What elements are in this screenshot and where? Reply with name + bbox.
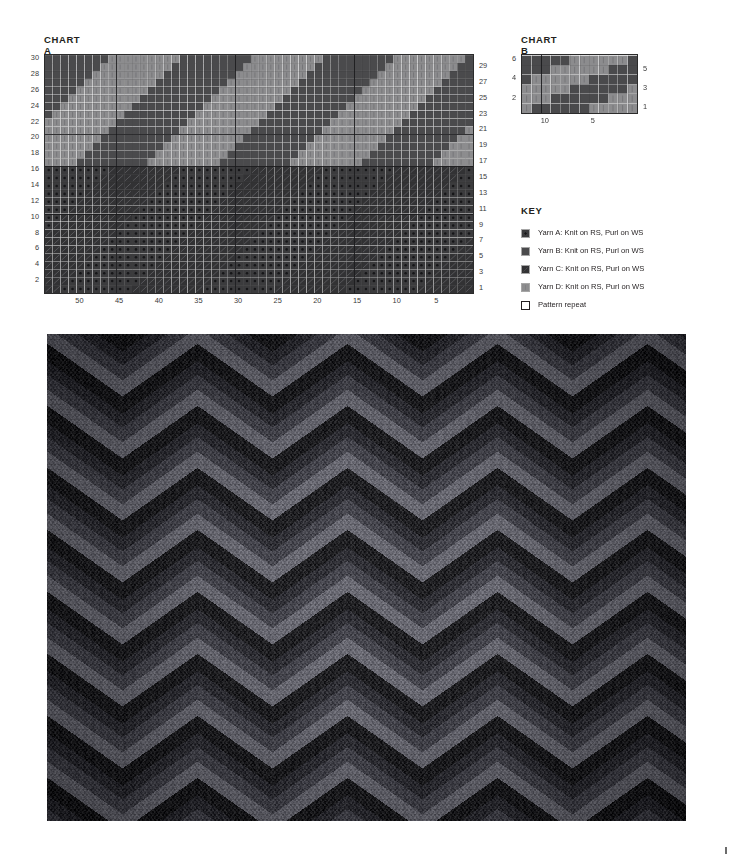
key-item-yarn-d: Yarn D: Knit on RS, Purl on WS: [521, 279, 726, 295]
chart-b-grid-wrap: 642531105: [521, 54, 638, 114]
chart-a-row-label-left: 18: [31, 148, 39, 157]
chart-a-row-label-left: 24: [31, 101, 39, 110]
chart-a-stitch-label: 15: [351, 296, 363, 305]
key-title: KEY: [521, 205, 726, 216]
chart-a-row-label-left: 4: [35, 259, 39, 268]
chart-a-stitch-label: 5: [430, 296, 442, 305]
chart-a-row-label-left: 6: [35, 243, 39, 252]
chart-a-row-label-right: 21: [479, 124, 487, 133]
chart-b-row-label-right: 3: [643, 83, 647, 92]
yarn-c-swatch-icon: [521, 265, 530, 274]
chart-b-row-label-left: 6: [512, 54, 516, 63]
key-item-pattern-repeat: Pattern repeat: [521, 297, 726, 313]
chart-a-row-label-right: 9: [479, 220, 483, 229]
chart-a-stitch-label: 25: [272, 296, 284, 305]
chart-a-row-label-right: 17: [479, 156, 487, 165]
chart-a-stitch-label: 30: [232, 296, 244, 305]
chart-a-row-label-left: 22: [31, 117, 39, 126]
knitted-swatch-photo: [47, 334, 686, 821]
chart-a-row-label-right: 25: [479, 93, 487, 102]
chart-b-stitch-label: 5: [587, 116, 599, 125]
chart-a-row-label-left: 2: [35, 275, 39, 284]
chart-b-title: CHART B: [521, 34, 557, 56]
chart-a-row-label-right: 7: [479, 235, 483, 244]
key-item-label: Pattern repeat: [538, 301, 586, 309]
chart-a-row-label-left: 14: [31, 180, 39, 189]
chart-a-stitch-label: 10: [391, 296, 403, 305]
chart-a-title: CHART A: [44, 34, 80, 56]
chart-a-row-label-right: 29: [479, 61, 487, 70]
chart-a-row-label-right: 23: [479, 109, 487, 118]
registration-tick-icon: [725, 847, 727, 854]
chart-a-row-label-right: 11: [479, 204, 487, 213]
chart-a-stitch-label: 40: [153, 296, 165, 305]
chart-a-stitch-label: 35: [192, 296, 204, 305]
chart-b-row-label-right: 1: [643, 102, 647, 111]
chart-a-stitch-label: 50: [73, 296, 85, 305]
chart-a-row-label-right: 19: [479, 140, 487, 149]
yarn-b-swatch-icon: [521, 247, 530, 256]
pattern-repeat-swatch-icon: [521, 301, 530, 310]
chart-a-row-label-right: 27: [479, 77, 487, 86]
chart-a-row-label-left: 26: [31, 85, 39, 94]
key-item-yarn-c: Yarn C: Knit on RS, Purl on WS: [521, 261, 726, 277]
key-item-label: Yarn D: Knit on RS, Purl on WS: [538, 283, 644, 291]
key-item-label: Yarn B: Knit on RS, Purl on WS: [538, 247, 644, 255]
chart-b-row-label-left: 2: [512, 93, 516, 102]
chart-b-row-label-right: 5: [643, 64, 647, 73]
key-block: KEY Yarn A: Knit on RS, Purl on WS Yarn …: [521, 205, 726, 315]
key-item-label: Yarn C: Knit on RS, Purl on WS: [538, 265, 644, 273]
key-item-yarn-b: Yarn B: Knit on RS, Purl on WS: [521, 243, 726, 259]
chart-a-row-label-left: 16: [31, 164, 39, 173]
chart-b-grid: [521, 54, 638, 114]
chart-a-stitch-label: 45: [113, 296, 125, 305]
yarn-d-swatch-icon: [521, 283, 530, 292]
chart-b-row-label-left: 4: [512, 73, 516, 82]
chart-a-row-label-left: 30: [31, 53, 39, 62]
chart-a-row-label-left: 28: [31, 69, 39, 78]
chart-a-row-label-left: 12: [31, 196, 39, 205]
chart-a-row-label-left: 20: [31, 132, 39, 141]
chart-a-grid: [44, 54, 474, 294]
yarn-a-swatch-icon: [521, 229, 530, 238]
chart-a-row-label-right: 15: [479, 172, 487, 181]
chart-a-row-label-left: 10: [31, 212, 39, 221]
chart-a-row-label-right: 5: [479, 251, 483, 260]
chart-a-row-label-left: 8: [35, 228, 39, 237]
chart-a-stitch-label: 20: [311, 296, 323, 305]
key-item-yarn-a: Yarn A: Knit on RS, Purl on WS: [521, 225, 726, 241]
chart-a-grid-wrap: 3028262422201816141210864229272523211917…: [44, 54, 474, 294]
chart-a-row-label-right: 3: [479, 267, 483, 276]
chart-a-row-label-right: 13: [479, 188, 487, 197]
chart-b-stitch-label: 10: [539, 116, 551, 125]
chart-a-row-label-right: 1: [479, 283, 483, 292]
key-item-label: Yarn A: Knit on RS, Purl on WS: [538, 229, 643, 237]
